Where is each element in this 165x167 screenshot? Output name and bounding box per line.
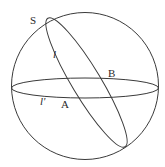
label-B: B: [108, 67, 115, 79]
label-A: A: [61, 98, 69, 110]
label-l: l: [53, 48, 56, 60]
diagram-canvas: S l B l' A: [0, 0, 165, 167]
label-S: S: [30, 14, 36, 26]
equator-circle: [12, 78, 159, 98]
label-l-prime: l': [40, 95, 46, 107]
tilted-great-circle: [35, 11, 137, 155]
sphere-outline: [12, 13, 159, 160]
sphere-diagram: S l B l' A: [0, 0, 165, 167]
